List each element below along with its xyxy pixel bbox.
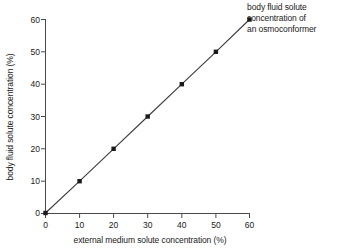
annotation-line-1: body fluid solute [247, 2, 339, 13]
x-axis-title: external medium solute concentration (%) [30, 235, 270, 245]
annotation-line-3: an osmoconformer [247, 24, 339, 35]
x-tick-label: 50 [204, 221, 228, 230]
x-tick-label: 10 [68, 221, 92, 230]
x-tick-label: 30 [136, 221, 160, 230]
x-tick-label: 20 [102, 221, 126, 230]
x-tick-label: 0 [34, 221, 58, 230]
y-axis-title: body fluid solute concentration (%) [5, 17, 15, 217]
osmoconformer-annotation: body fluid solute concentration of an os… [247, 2, 339, 35]
chart-figure: 0 10 20 30 40 50 60 0 10 20 30 40 50 60 … [0, 0, 339, 252]
x-tick-label: 40 [170, 221, 194, 230]
x-tick-label: 60 [238, 221, 262, 230]
x-axis-tick-labels: 0 10 20 30 40 50 60 [0, 0, 339, 252]
annotation-line-2: concentration of [247, 13, 339, 24]
